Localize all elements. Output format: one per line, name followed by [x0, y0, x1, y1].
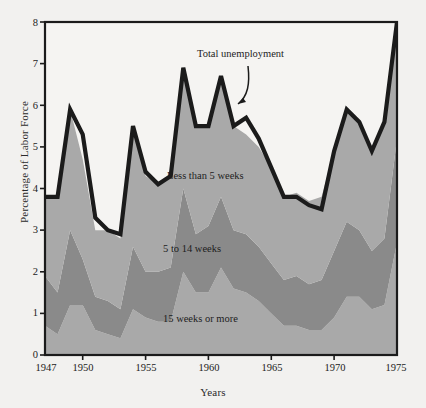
- chart-plot-area: [0, 0, 426, 408]
- chart-figure: Percentage of Labor Force Years 0 1 2 3 …: [0, 0, 426, 408]
- series-label-less-than-5-weeks: Less than 5 weeks: [167, 170, 244, 181]
- series-label-15-weeks-or-more: 15 weeks or more: [163, 313, 238, 324]
- series-label-total-unemployment: Total unemployment: [197, 48, 284, 59]
- series-label-5-to-14-weeks: 5 to 14 weeks: [163, 243, 221, 254]
